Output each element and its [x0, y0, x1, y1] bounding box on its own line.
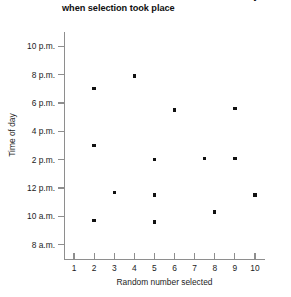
data-point [153, 158, 156, 161]
y-axis-tick-label-wrap: 12 p.m. [0, 183, 55, 193]
x-axis-tick-label: 2 [85, 263, 103, 273]
x-axis-tick-label: 5 [145, 263, 163, 273]
y-axis-tick-label: 12 p.m. [27, 183, 55, 193]
y-axis-tick-label: 8 p.m. [32, 70, 55, 80]
y-axis-tick-label-wrap: 10 p.m. [0, 41, 55, 51]
y-axis-tick [58, 74, 64, 75]
x-axis-tick [94, 253, 95, 259]
x-axis-tick-label: 6 [166, 263, 184, 273]
x-axis-tick-label: 4 [125, 263, 143, 273]
x-axis-tick-label: 3 [105, 263, 123, 273]
y-axis-tick [58, 244, 64, 245]
data-point [92, 87, 95, 90]
y-axis-line [64, 32, 65, 260]
y-axis-tick [58, 187, 64, 188]
scatter-chart-figure: between number selected and the time of … [0, 0, 291, 297]
data-point [213, 210, 216, 213]
y-axis-tick-label: 10 a.m. [27, 211, 55, 221]
x-axis-tick [214, 253, 215, 259]
y-axis-tick [58, 216, 64, 217]
y-axis-tick-label-wrap: 8 p.m. [0, 70, 55, 80]
x-axis-tick-label: 10 [246, 263, 264, 273]
y-axis-tick-label-wrap: 10 a.m. [0, 211, 55, 221]
data-point [133, 74, 136, 77]
x-axis-title: Random number selected [64, 277, 265, 287]
data-point [173, 108, 176, 111]
x-axis-tick [234, 253, 235, 259]
y-axis-tick-label: 10 p.m. [27, 41, 55, 51]
data-point [113, 191, 116, 194]
y-axis-tick-label: 8 a.m. [32, 240, 55, 250]
x-axis-tick [73, 253, 74, 259]
y-axis-tick [58, 159, 64, 160]
y-axis-tick [58, 102, 64, 103]
y-axis-tick-label: 6 p.m. [32, 98, 55, 108]
x-axis-tick [154, 253, 155, 259]
x-axis-tick [134, 253, 135, 259]
x-axis-tick-label: 8 [206, 263, 224, 273]
data-point [92, 144, 95, 147]
y-axis-tick [58, 131, 64, 132]
data-point [253, 193, 256, 196]
x-axis-line [64, 259, 265, 260]
x-axis-tick-label: 1 [65, 263, 83, 273]
data-point [233, 157, 236, 160]
data-point [153, 220, 156, 223]
x-axis-tick [114, 253, 115, 259]
y-axis-tick-label: 4 p.m. [32, 126, 55, 136]
y-axis-tick-label: 2 p.m. [32, 155, 55, 165]
x-axis-tick [194, 253, 195, 259]
data-point [92, 219, 95, 222]
chart-title: between number selected and the time of … [62, 0, 287, 14]
data-point [153, 193, 156, 196]
y-axis-title: Time of day [7, 100, 17, 170]
x-axis-tick-label: 7 [186, 263, 204, 273]
x-axis-tick [174, 253, 175, 259]
y-axis-tick [58, 46, 64, 47]
x-axis-tick [254, 253, 255, 259]
x-axis-tick-label: 9 [226, 263, 244, 273]
y-axis-tick-label-wrap: 8 a.m. [0, 240, 55, 250]
data-point [203, 157, 206, 160]
data-point [233, 107, 236, 110]
